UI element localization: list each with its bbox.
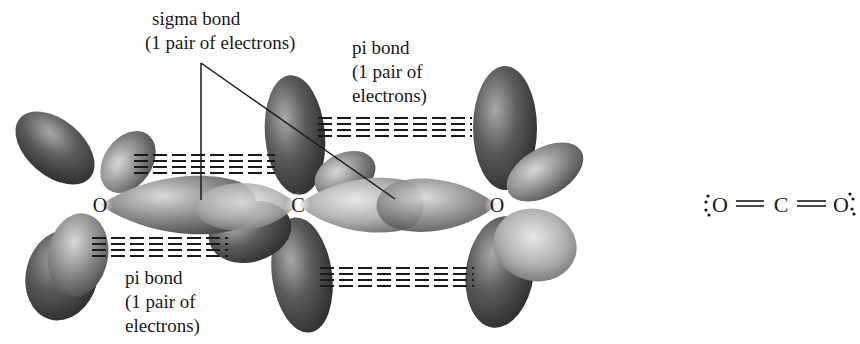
sigma-bond-label: sigma bond (1 pair of electrons) — [152, 7, 295, 55]
pi-bond-label-top: pi bond (1 pair of electrons) — [352, 36, 427, 108]
pi-bond-top-line3: electrons) — [352, 84, 427, 108]
pi-bond-dashes-top-right — [318, 118, 472, 136]
pi-bond-top-line1: pi bond — [352, 36, 427, 60]
pi-bond-dashes-bottom-left — [92, 238, 228, 256]
sigma-bond-label-line1: sigma bond — [152, 7, 295, 31]
pi-bond-bottom-line3: electrons) — [125, 314, 200, 338]
lewis-structure: O C O — [700, 185, 860, 230]
pi-bond-dashes-bottom-right — [320, 268, 474, 286]
lewis-right-oxygen: O — [833, 192, 849, 217]
lewis-carbon: C — [774, 192, 789, 217]
lewis-left-oxygen: O — [712, 192, 728, 217]
pi-bond-bottom-line2: (1 pair of — [125, 290, 200, 314]
pi-bond-top-line2: (1 pair of — [352, 60, 427, 84]
sigma-bond-label-line2: (1 pair of electrons) — [145, 31, 295, 55]
pi-bond-bottom-line1: pi bond — [125, 266, 200, 290]
atom-carbon: C — [291, 194, 304, 216]
atom-right-oxygen: O — [490, 194, 504, 216]
pi-bond-label-bottom: pi bond (1 pair of electrons) — [125, 266, 200, 338]
atom-left-oxygen: O — [93, 194, 107, 216]
